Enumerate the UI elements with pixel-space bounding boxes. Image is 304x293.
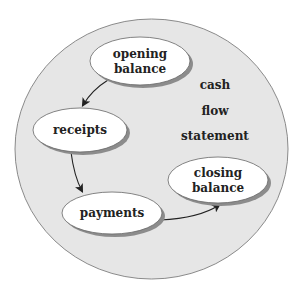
node-label: receipts <box>53 123 107 137</box>
node-label: balance <box>114 62 167 76</box>
node-label: closing <box>194 166 243 180</box>
cash-flow-diagram: cash flow statement opening balance rece… <box>0 0 304 293</box>
node-label: balance <box>192 181 245 195</box>
node-label: opening <box>113 47 168 61</box>
title-line-cash: cash <box>200 78 231 92</box>
title-line-flow: flow <box>201 104 229 118</box>
title-line-statement: statement <box>181 129 249 143</box>
node-label: payments <box>80 206 145 220</box>
